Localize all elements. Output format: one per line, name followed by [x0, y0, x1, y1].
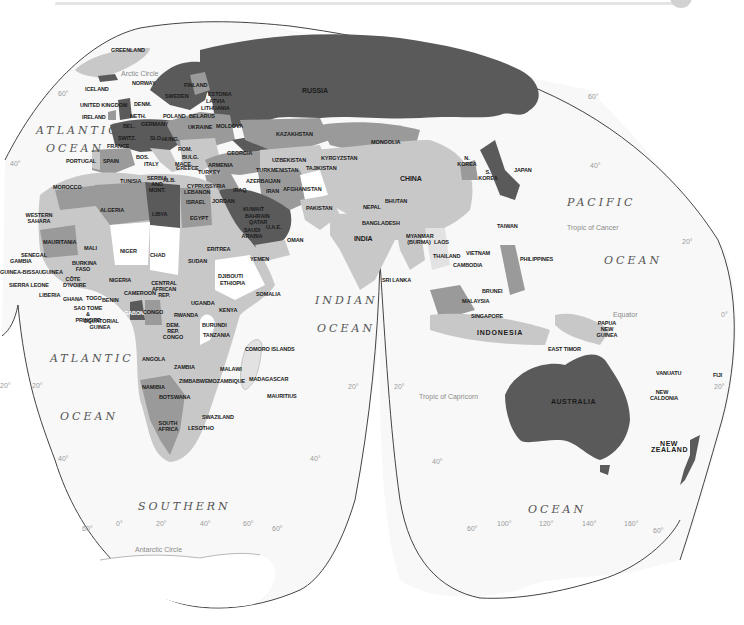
country-label: CHAD	[150, 252, 166, 258]
country-label: UGANDA	[191, 300, 215, 306]
country-label: SUDAN	[188, 258, 207, 264]
country-label: BULG.	[182, 154, 199, 160]
country-label: SWITZ.	[118, 135, 136, 141]
country-label: GAMBIA	[10, 258, 32, 264]
country-label: LATVIA	[206, 98, 225, 104]
country-label: PHILIPPINES	[520, 256, 553, 262]
country-label: IRAQ	[233, 187, 246, 193]
country-label: TAJIKISTAN	[306, 165, 337, 171]
country-label: UKRAINE	[188, 124, 212, 130]
country-label: TOGO	[86, 295, 102, 301]
country-label: ERITREA	[207, 246, 230, 252]
graticule-label: 60°	[588, 93, 599, 100]
graticule-label: 20°	[0, 382, 11, 389]
country-label: DENM.	[134, 101, 151, 107]
graticule-label: 60°	[467, 525, 478, 532]
graticule-label: 60°	[272, 525, 283, 532]
ocean-label-pacific-ocean: OCEAN	[604, 254, 662, 267]
country-label: ISRAEL	[186, 199, 206, 205]
graticule-label: 100°	[497, 520, 511, 527]
country-label: AZERBAIJAN	[246, 178, 280, 184]
graticule-label: 0°	[116, 520, 123, 527]
country-label: SLO.	[150, 135, 162, 141]
country-label: JORDAN	[212, 198, 235, 204]
country-label: ALGERIA	[100, 207, 124, 213]
ocean-label-atlantic-north: ATLANTIC	[36, 124, 120, 137]
country-label: BANGLADESH	[362, 220, 400, 226]
country-label: SYRIA	[209, 183, 225, 189]
graticule-label: 20°	[394, 383, 405, 390]
graticule-label: 120°	[539, 520, 553, 527]
country-label: PAPUA NEW GUINEA	[596, 320, 618, 338]
country-label: NETH.	[130, 113, 146, 119]
country-label: MALAWI	[220, 366, 242, 372]
country-label: MOLDOVA	[216, 123, 243, 129]
country-label: KUWAIT	[243, 206, 264, 212]
country-label: SPAIN	[103, 158, 119, 164]
country-label: CÔTE D'IVOIRE	[63, 276, 83, 288]
country-label: DEM. REP. CONGO	[160, 322, 186, 340]
country-label: EQUATORIAL GUINEA	[84, 318, 116, 330]
country-label: QATAR	[249, 219, 267, 225]
country-label: GEORGIA	[227, 150, 252, 156]
country-label: COMORO ISLANDS	[245, 346, 295, 352]
country-label: SOUTH AFRICA	[158, 420, 178, 432]
country-label: CONGO	[143, 309, 163, 315]
country-label: KAZAKHSTAN	[276, 131, 313, 137]
country-label: SWAZILAND	[202, 414, 234, 420]
country-label: WESTERN SAHARA	[25, 212, 53, 224]
country-label: MONGOLIA	[371, 139, 400, 145]
graticule-label: 20°	[714, 383, 725, 390]
country-label: MALAYSIA	[462, 298, 489, 304]
country-label: BEL.	[123, 123, 135, 129]
arctic-circle-label: Arctic Circle	[121, 70, 158, 77]
country-label: BELARUS	[189, 113, 215, 119]
country-label: GERMANY	[141, 121, 168, 127]
country-label: GREENLAND	[111, 47, 145, 53]
country-label: GREECE	[176, 165, 199, 171]
graticule-label: 40°	[200, 520, 211, 527]
country-label: JAPAN	[514, 167, 532, 173]
graticule-label: 20°	[348, 383, 359, 390]
country-label: CENTRAL AFRICAN REP.	[148, 280, 180, 298]
country-label: OMAN	[287, 237, 303, 243]
graticule-label: 20°	[156, 520, 167, 527]
graticule-label: 60°	[653, 527, 664, 534]
equator-label: Equator	[613, 311, 638, 318]
country-label: NIGER	[120, 248, 137, 254]
country-label: SOMALIA	[256, 291, 281, 297]
tropic-capricorn-label: Tropic of Capricorn	[419, 393, 478, 400]
country-label: EAST TIMOR	[548, 346, 581, 352]
graticule-label: 40°	[10, 160, 21, 167]
country-label: SIERRA LEONE	[9, 282, 49, 288]
country-label: BHUTAN	[385, 198, 407, 204]
country-label: NEW CALDONIA	[650, 389, 674, 401]
ocean-label-southern-ocean: OCEAN	[528, 503, 586, 516]
country-label: BOTSWANA	[159, 394, 190, 400]
country-label: BURKINA FASO	[72, 260, 94, 272]
graticule-label: 40°	[58, 455, 69, 462]
country-label: NORWAY	[132, 80, 156, 86]
graticule-label: 20°	[682, 238, 693, 245]
ocean-label-atlantic-south-ocean: OCEAN	[60, 410, 118, 423]
country-label: NEPAL	[363, 204, 381, 210]
country-label: GHANA	[63, 296, 83, 302]
ocean-label-southern: SOUTHERN	[138, 500, 231, 513]
ocean-label-indian-ocean: OCEAN	[317, 322, 375, 335]
country-label: ZIMBABWE	[179, 378, 208, 384]
country-label: AFGHANISTAN	[283, 186, 322, 192]
tropic-cancer-label: Tropic of Cancer	[567, 224, 618, 231]
ocean-label-atlantic-north-ocean: OCEAN	[46, 142, 104, 155]
country-label: TURKEY	[198, 169, 220, 175]
country-label: FIJI	[713, 372, 722, 378]
graticule-label: 40°	[590, 162, 601, 169]
graticule-label: 60°	[82, 525, 93, 532]
country-label: RWANDA	[174, 312, 198, 318]
country-label: CHINA	[400, 176, 422, 182]
graticule-label: 60°	[58, 90, 69, 97]
country-label: MAURITIUS	[267, 393, 297, 399]
ocean-label-pacific: PACIFIC	[567, 196, 636, 209]
country-label: S. KOREA	[478, 169, 498, 181]
country-label: U.A.E.	[266, 224, 282, 230]
country-label: NAMIBIA	[142, 384, 165, 390]
